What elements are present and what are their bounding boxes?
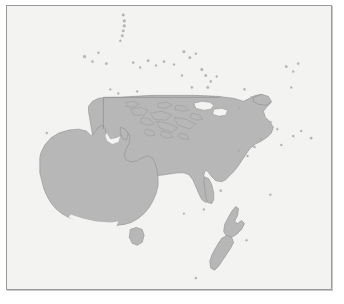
map-frame <box>6 5 332 290</box>
nz-south-island <box>210 235 234 270</box>
great-lakes-lower <box>213 108 228 116</box>
map-canvas <box>7 6 331 289</box>
region-new-zealand <box>210 207 245 271</box>
nz-north-island <box>224 207 245 238</box>
map-figure <box>0 0 344 304</box>
region-tasmania <box>129 227 144 245</box>
